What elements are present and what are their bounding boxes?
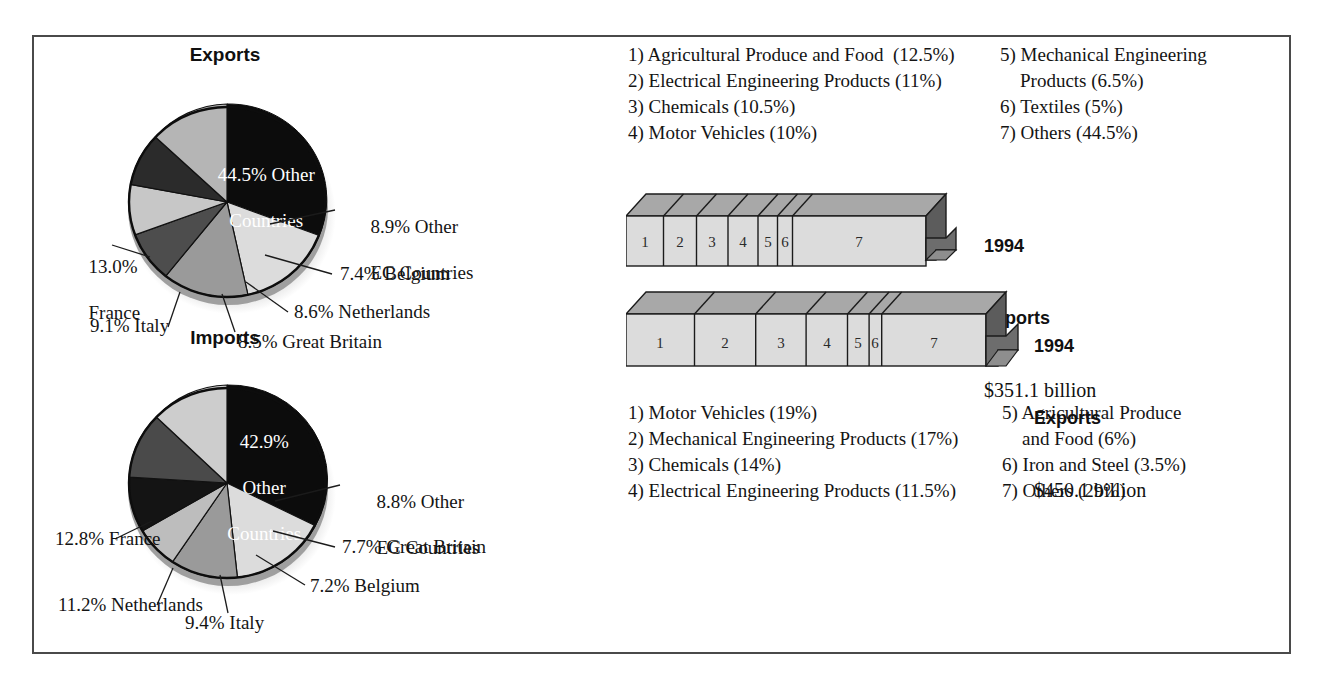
imports-bar-segment-number: 5 <box>764 234 772 250</box>
legend-item: 7) Others (44.5%) <box>1000 120 1288 146</box>
imports-bar-3d: 1 2 3 4 5 6 7 <box>626 180 966 280</box>
legend-item: 2) Mechanical Engineering Products (17%) <box>628 426 978 452</box>
legend-item: 7) Others (29%) <box>1002 478 1288 504</box>
legend-item: 6) Iron and Steel (3.5%) <box>1002 452 1288 478</box>
exports-other-countries-line2: Countries <box>229 210 303 231</box>
legend-item-continuation: and Food (6%) <box>1002 426 1288 452</box>
legend-item: 3) Chemicals (10.5%) <box>628 94 988 120</box>
exports-bar-segment-number: 2 <box>721 335 729 351</box>
imports-bar-segment-number: 2 <box>676 234 684 250</box>
imports-bar-segment-number: 7 <box>855 234 863 250</box>
legend-item: 4) Motor Vehicles (10%) <box>628 120 988 146</box>
legend-item: 6) Textiles (5%) <box>1000 94 1288 120</box>
imports-callout-netherlands: 11.2% Netherlands <box>58 593 203 616</box>
imports-legend-right-column: 5) Mechanical Engineering Products (6.5%… <box>1000 42 1288 146</box>
exports-commodity-legend: 1) Motor Vehicles (19%) 2) Mechanical En… <box>628 400 1288 530</box>
imports-bar-segment-number: 6 <box>781 234 789 250</box>
legend-item: 1) Motor Vehicles (19%) <box>628 400 978 426</box>
exports-other-ec-line1: 8.9% Other <box>371 216 459 237</box>
exports-bar-segment-number: 1 <box>656 335 664 351</box>
imports-pie-title: Imports <box>60 327 390 349</box>
exports-bar-graphic: 1 2 3 4 5 6 7 <box>626 278 1026 383</box>
exports-bar-segment-number: 7 <box>930 335 938 351</box>
exports-other-countries-label: 44.5% Other Countries <box>152 140 352 255</box>
imports-callout-great-britain: 7.7% Great Britain <box>342 535 486 558</box>
exports-france-line1: 13.0% <box>89 256 138 277</box>
exports-legend-left-column: 1) Motor Vehicles (19%) 2) Mechanical En… <box>628 400 978 504</box>
exports-caption-year: 1994 <box>1034 334 1146 358</box>
legend-item: and Food (6%) <box>1002 426 1288 452</box>
exports-bar-segment-number: 4 <box>823 335 831 351</box>
legend-item: Products (6.5%) <box>1000 68 1288 94</box>
exports-pie-title: Exports <box>60 44 390 66</box>
exports-pie-chart: Exports <box>60 42 600 342</box>
exports-bar-3d: 1 2 3 4 5 6 7 <box>626 278 1026 383</box>
imports-legend-left-column: 1) Agricultural Produce and Food (12.5%)… <box>628 42 988 146</box>
imports-bar-segment-number: 1 <box>641 234 649 250</box>
legend-item: 2) Electrical Engineering Products (11%) <box>628 68 988 94</box>
exports-callout-netherlands: 8.6% Netherlands <box>294 300 430 323</box>
legend-item: 5) Agricultural Produce <box>1002 400 1288 426</box>
imports-callout-belgium: 7.2% Belgium <box>310 574 420 597</box>
imports-callout-other-ec: 8.8% Other EC Countries <box>348 467 479 582</box>
exports-bar-segment-number: 5 <box>854 335 862 351</box>
exports-bar-segment-number: 3 <box>777 335 785 351</box>
imports-other-ec-line1: 8.8% Other <box>377 491 465 512</box>
imports-caption-year: 1994 <box>984 234 1096 258</box>
legend-item: 4) Electrical Engineering Products (11.5… <box>628 478 978 504</box>
imports-bar-graphic: 1 2 3 4 5 6 7 <box>626 180 966 280</box>
legend-item: 5) Mechanical Engineering <box>1000 42 1288 68</box>
exports-callout-other-ec: 8.9% Other EC Countries <box>342 192 473 307</box>
imports-other-countries-line3: Countries <box>227 523 301 544</box>
exports-bar-segment-number: 6 <box>871 335 879 351</box>
imports-other-countries-line2: Other <box>243 477 286 498</box>
legend-item: 3) Chemicals (14%) <box>628 452 978 478</box>
exports-other-countries-line1: 44.5% Other <box>218 164 315 185</box>
imports-other-countries-line1: 42.9% <box>240 431 289 452</box>
infographic-root: Exports <box>0 0 1318 689</box>
imports-callout-france: 12.8% France <box>55 527 161 550</box>
imports-other-countries-label: 42.9% Other Countries <box>165 407 335 568</box>
imports-bar-segment-number: 3 <box>708 234 716 250</box>
imports-bar-segment-number: 4 <box>739 234 747 250</box>
exports-legend-right-column: 5) Agricultural Produce and Food (6%) 6)… <box>1002 400 1288 504</box>
exports-france-line2: France <box>89 302 141 323</box>
imports-commodity-legend: 1) Agricultural Produce and Food (12.5%)… <box>628 42 1288 172</box>
exports-callout-belgium: 7.4% Belgium <box>340 262 450 285</box>
legend-item-continuation: Products (6.5%) <box>1000 68 1288 94</box>
imports-pie-chart: Imports <box>60 325 600 635</box>
legend-item: 1) Agricultural Produce and Food (12.5%) <box>628 42 988 68</box>
